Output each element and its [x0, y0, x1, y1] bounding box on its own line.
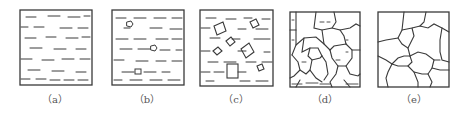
- panel-e: [378, 12, 449, 87]
- panel-label-a: （a）: [42, 91, 68, 106]
- panel-label-b: （b）: [134, 91, 160, 106]
- panel-d: [290, 12, 360, 87]
- panel-label-e: （e）: [401, 91, 427, 106]
- panel-a: [20, 10, 92, 85]
- panel-b: [112, 10, 184, 85]
- panel-c: [200, 10, 273, 86]
- panel-label-d: （d）: [312, 91, 338, 106]
- panel-label-c: （c）: [223, 91, 249, 106]
